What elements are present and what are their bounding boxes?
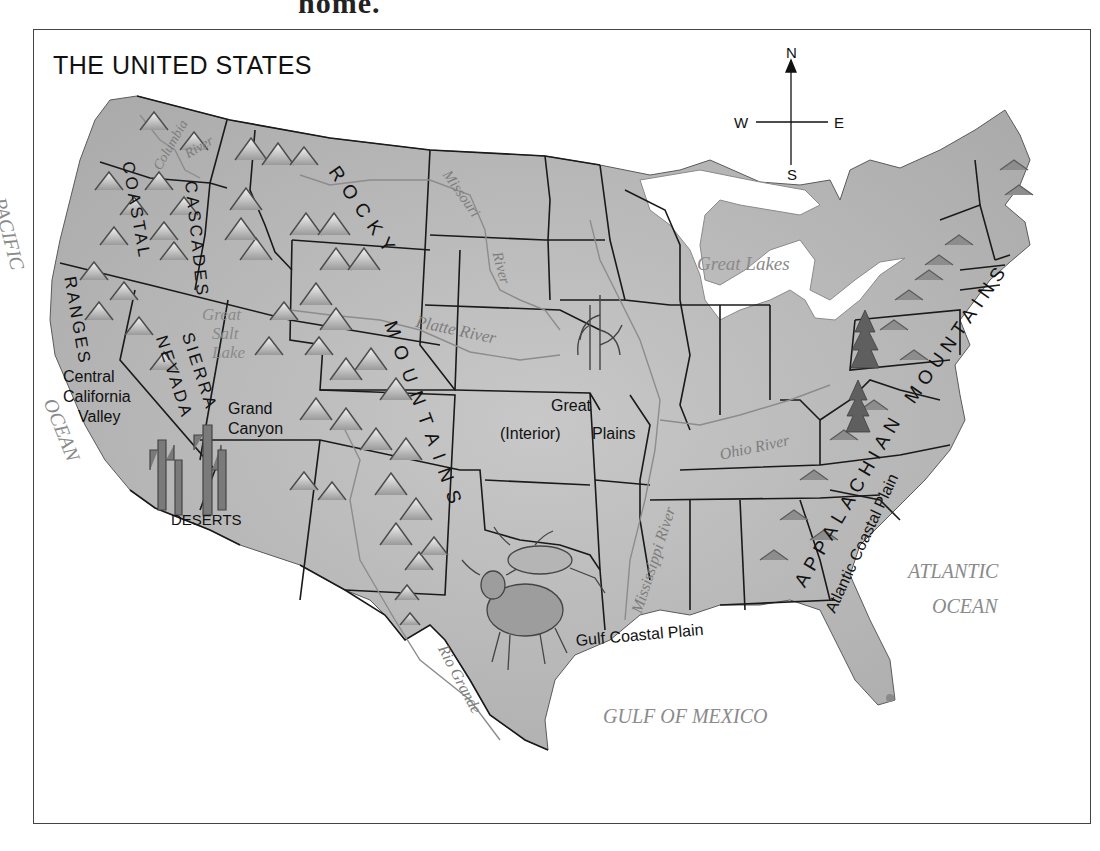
label-grand: Grand [228, 400, 272, 418]
label-great-plains-1: Great [551, 397, 591, 415]
compass-west: W [734, 114, 748, 131]
label-great-plains-3: Plains [592, 425, 636, 443]
label-atlantic-ocean: OCEAN [932, 595, 998, 618]
label-atlantic: ATLANTIC [908, 560, 998, 583]
label-great-salt-lake-3: Lake [212, 343, 245, 363]
label-deserts: DESERTS [171, 511, 242, 528]
label-great-salt-lake-2: Salt [212, 324, 238, 344]
label-great-salt-lake-1: Great [202, 305, 241, 325]
map-title: THE UNITED STATES [53, 51, 312, 80]
label-central: Central [63, 368, 115, 386]
compass-north: N [786, 44, 797, 61]
compass-east: E [834, 114, 844, 131]
lake-okeechobee [886, 694, 894, 702]
label-gulf-of-mexico: GULF OF MEXICO [603, 705, 767, 728]
label-california: California [63, 388, 131, 406]
compass-rose [756, 60, 828, 165]
label-valley: Valley [78, 408, 120, 426]
label-great-plains-2: (Interior) [500, 425, 560, 443]
label-great-lakes: Great Lakes [697, 253, 790, 275]
label-canyon: Canyon [228, 420, 283, 438]
compass-south: S [787, 166, 797, 183]
